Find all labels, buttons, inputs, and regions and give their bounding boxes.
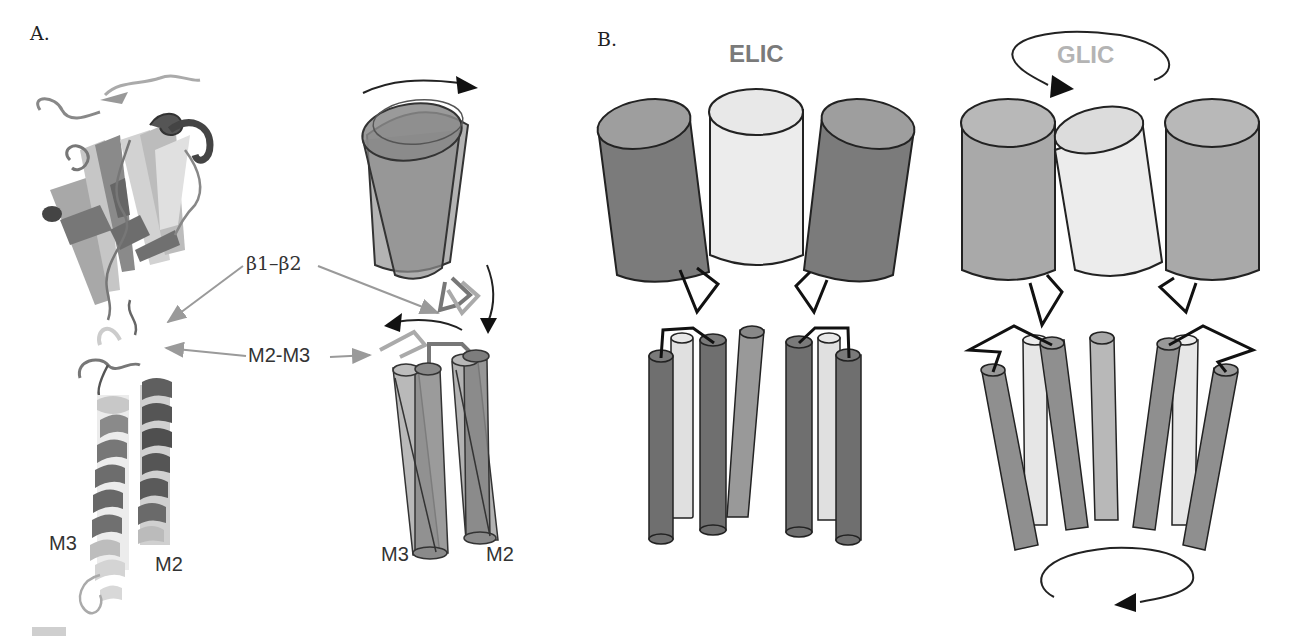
- beta-loop-pointer-left: [168, 266, 243, 322]
- glic-ecd-right: [1165, 99, 1259, 280]
- elic-schematic: [594, 89, 919, 545]
- panel-a-label: A.: [30, 22, 50, 44]
- glic-schematic: [961, 32, 1259, 612]
- m2m3-pointer-left: [166, 348, 246, 356]
- figure: A. B. β1–β2 M2-M3 M3 M2 M3 M2 ELIC GLIC: [0, 0, 1300, 636]
- elic-title: ELIC: [729, 40, 784, 68]
- elic-ecd-left: [594, 92, 709, 282]
- m2m3-loop-label: M2-M3: [248, 344, 310, 367]
- panel-b-label: B.: [597, 28, 617, 50]
- glic-title: GLIC: [1057, 41, 1114, 69]
- beta-loop-label: β1–β2: [246, 252, 302, 274]
- m2m3-pointer-right: [330, 355, 370, 357]
- caption-label-box: [32, 627, 66, 636]
- schematic-m3-label: M3: [381, 543, 409, 566]
- schematic-m2-label: M2: [486, 543, 514, 566]
- elic-ecd-right: [804, 92, 918, 281]
- panel-a-schematic: [359, 76, 498, 559]
- glic-ecd-left: [961, 99, 1055, 280]
- elic-ecd-middle: [709, 89, 803, 265]
- figure-drawing: [0, 0, 1300, 636]
- ribbon-m3-label: M3: [49, 532, 77, 555]
- glic-ecd-middle: [1050, 99, 1162, 276]
- ribbon-m2-label: M2: [155, 553, 183, 576]
